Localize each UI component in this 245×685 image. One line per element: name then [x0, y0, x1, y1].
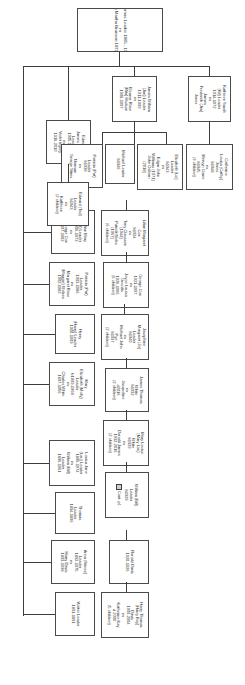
node-line: Mary: [83, 380, 88, 389]
gen3-spine-jameswilliam: [103, 132, 167, 133]
root-couple-node[interactable]: Thomas Leader 1865 - 1942 m Louisa Marth…: [77, 8, 163, 52]
node-line: 1920-1926: [124, 552, 129, 571]
node-line: 1916-2010: [52, 132, 57, 151]
node-line: Cox: [136, 229, 141, 236]
gen2-node-kathleen-sarah[interactable]: Kathleen Sarah (Kit) Leader 1914-1972 m …: [188, 76, 231, 122]
node-line: m: [121, 441, 126, 444]
continuation-note[interactable]: Cont. p1: [116, 484, 121, 506]
gen3-node-james-thomas-white[interactable]: James Thomas White b1932 m Jacqueline d2…: [105, 368, 149, 412]
gen2-tick-2: [134, 66, 135, 76]
rotated-chart-wrapper: Thomas Leader 1865 - 1942 m Louisa Marth…: [0, 0, 245, 685]
gen3-node-mary-louise-white[interactable]: Mary Louise (Mary Lou) White b1929 m Don…: [103, 420, 149, 466]
gen2-drop-thomasjr: [24, 513, 55, 514]
node-children-count: (5 children): [107, 605, 112, 625]
gen3-tick-patricia2: [102, 132, 103, 144]
gen3-tick-william-bill: [126, 462, 127, 472]
node-line: Jones: [193, 94, 198, 105]
gen3-node-michael-leader[interactable]: Michael Leader b1946: [105, 144, 135, 184]
gen3-tick-ronald: [126, 530, 127, 540]
gen3-node-harry-thomas-davis[interactable]: Harry Thomas (Harry Boy) Davis 1900-2004…: [101, 592, 149, 638]
gen2-drop-louisa: [24, 463, 49, 464]
gen3-node-william-bill-leader[interactable]: William (Bill) Leader b1929 Cont. p1: [105, 472, 149, 518]
gen2-node-patricia-leader[interactable]: Patricia (Pat) Leader 1903-1986 m Margar…: [49, 262, 95, 306]
node-line: (Kit) Leader: [216, 89, 221, 110]
node-line: 1896-1961: [56, 453, 61, 472]
node-line: 1902-1982: [56, 274, 61, 293]
node-children-count: (2 children): [111, 380, 116, 400]
node-children-count: (2 children): [54, 194, 59, 214]
node-line: m: [68, 560, 73, 563]
node-line: 1908-1997: [118, 89, 123, 108]
gen2-node-henry-leader[interactable]: Henry (Harry) Leader 1900-1909: [55, 314, 95, 354]
node-line: m: [120, 613, 125, 616]
gen3-tick-james-white: [126, 358, 127, 368]
gen3-tick-harry-thomas: [126, 582, 127, 592]
node-line: 1894-1896: [68, 503, 73, 522]
gen2-drop-henry: [24, 334, 55, 335]
node-line: 1900-1909: [68, 324, 73, 343]
gen3-tick-jameswilliam: [134, 122, 135, 132]
gen2-tick-1: [209, 66, 210, 76]
gen2-tick-3: [68, 66, 69, 120]
gen3-node-lilian-margaret[interactable]: Lilian Margaret Cox b1924 m Tony Clausse…: [101, 210, 149, 256]
node-line: Leader: [128, 489, 133, 501]
gen3-tick-george-cox: [126, 252, 127, 262]
page-icon: [116, 484, 121, 489]
node-line: (Jim) Leader: [141, 88, 146, 110]
gen2-node-james-william[interactable]: James William (Jim) Leader 1911-1990 m E…: [112, 76, 157, 122]
gen3-node-catherine-louisa[interactable]: Catherine Louisa (Cathy) Jones b1948 m M…: [186, 144, 233, 190]
root-stem: [119, 52, 120, 66]
node-line: m: [77, 164, 82, 167]
gen3-tick-edwardted: [68, 164, 69, 182]
node-line: b1929: [124, 489, 129, 500]
node-children-count: (6 children): [110, 275, 115, 295]
gen3-tick-catherine: [209, 122, 210, 144]
node-line: Edgar John: [155, 157, 160, 177]
gen3-node-josephine-margaret[interactable]: Josephine Margaret (Jo) Leader b1940 m M…: [101, 314, 149, 360]
gen3-node-george-cox[interactable]: George Cox 1921-1997 m Joyce Louisa Gruz…: [103, 262, 149, 308]
node-line: b1948: [210, 161, 215, 172]
gen3-tick-josephine: [124, 304, 125, 314]
continuation-label: Cont. p1: [117, 491, 121, 506]
node-line: 1891-1891: [70, 604, 75, 623]
gen3-node-ronald-davis[interactable]: Ronald Davis 1920-1926: [109, 540, 149, 584]
gen2-node-walter-leader[interactable]: Walter Leader 1891-1891: [55, 592, 95, 636]
gen2-node-thomas-leader-jr[interactable]: Thomas Leader 1894-1896: [55, 492, 95, 534]
gen2-drop-anna: [24, 562, 51, 563]
gen3-node-edward-ted-2[interactable]: Edward (Ted) Leader b1943 m Kathleen (2 …: [47, 182, 89, 226]
family-tree-chart: Thomas Leader 1865 - 1942 m Louisa Marth…: [0, 0, 245, 685]
node-line: Mervyn Crane: [200, 154, 205, 179]
root-line-3: Louisa Martha Brunson 1871-1954: [113, 8, 118, 52]
node-line: 1897-1956: [56, 374, 61, 393]
gen3-tick-elizabeth: [166, 132, 167, 144]
gen2-node-anna-frances[interactable]: Anna (Nance) Leader 1892-1975 m Harry Da…: [51, 540, 95, 584]
root-line-1: Thomas Leader 1865 - 1942: [122, 8, 127, 52]
node-children-count: (6 children): [104, 223, 109, 243]
node-children-count: (2 children): [108, 433, 113, 453]
gen2-drop-patricia: [24, 284, 49, 285]
node-line: 1893-1938: [59, 552, 64, 571]
node-line: m: [63, 202, 68, 205]
node-line: b1946: [115, 158, 120, 169]
node-children-count: (2 children): [104, 327, 109, 347]
gen2-node-mary-elizabeth[interactable]: Mary Elizabeth (Molly) Leader b1899-1968…: [49, 362, 95, 406]
gen2-drop-walter: [24, 614, 55, 615]
gen3-tick-michael: [134, 132, 135, 144]
node-line: Louisa Jane: [83, 452, 88, 474]
gen2-spine: [24, 66, 210, 67]
gen3-tick-lilian-margaret: [126, 200, 127, 210]
node-line: George Cox: [137, 274, 142, 296]
gen2-node-louisa-jane[interactable]: Louisa Jane (Lou) Leader 1896-1974 m Wil…: [49, 440, 95, 486]
gen3-node-elizabeth-liz[interactable]: Elizabeth (Liz) Leader b1943 m Edgar Joh…: [137, 144, 183, 190]
gen3-tick-mary-louise: [126, 410, 127, 420]
node-line: Margaret (Jo): [136, 325, 141, 349]
gen2-drop-lillian: [24, 232, 51, 233]
gen2-drop-mary: [24, 384, 49, 385]
node-line: Patricia (Pat): [83, 273, 88, 296]
node-line: James Thomas: [138, 376, 143, 403]
node-line: m: [68, 230, 73, 233]
node-line: (2018): [142, 161, 147, 173]
node-children-count: (3 children): [191, 157, 196, 177]
gen2-lower-spine: [23, 66, 24, 616]
